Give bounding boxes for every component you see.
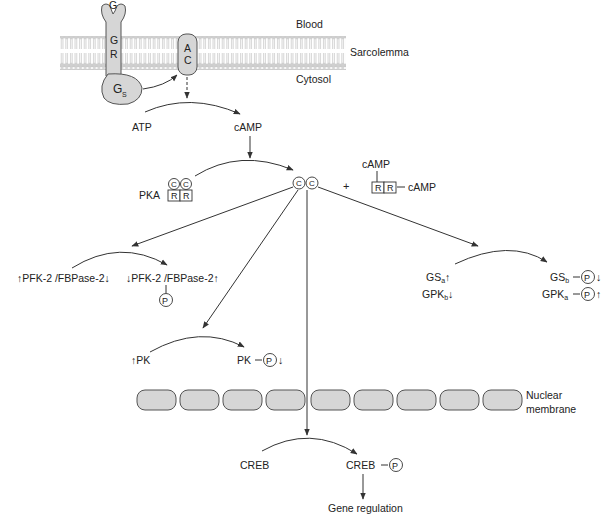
ac-letter-a: A [184, 42, 191, 54]
sarcolemma-bilayer [60, 36, 346, 70]
svg-text:C: C [309, 179, 315, 188]
gs-to-ac-arrow [143, 75, 177, 89]
creb-phosphorylated: CREB P [346, 459, 403, 472]
blood-label: Blood [296, 18, 323, 30]
svg-text:GPKa: GPKa [542, 288, 568, 301]
atp-label: ATP [132, 121, 152, 133]
svg-text:PK: PK [237, 354, 251, 366]
svg-text:↓: ↓ [278, 354, 283, 366]
glycogen-phosphorylation-arrow [455, 250, 547, 264]
nuclear-label-line2: membrane [526, 403, 576, 415]
svg-text:↑: ↑ [596, 288, 601, 300]
camp-top-label: cAMP [362, 158, 390, 170]
svg-text:P: P [584, 273, 590, 283]
glycogen-phosphorylated: GSb P ↓ GPKa P ↑ [542, 271, 601, 302]
pfk2-unphosphorylated: ↑PFK-2 /FBPase-2↓ [17, 272, 110, 284]
regulatory-camp-complex: cAMP R R cAMP [362, 158, 436, 193]
gene-regulation-label: Gene regulation [328, 502, 403, 514]
svg-text:C: C [171, 180, 177, 189]
svg-text:P: P [392, 461, 398, 471]
pka-holoenzyme: C C R R [168, 179, 192, 202]
svg-text:GSa↑: GSa↑ [426, 271, 450, 284]
receptor-letter-g: G [110, 34, 118, 46]
camp-side-label: cAMP [408, 181, 436, 193]
pka-activation-arrow [195, 160, 293, 176]
svg-text:GSb: GSb [550, 271, 569, 284]
svg-text:C: C [296, 179, 302, 188]
svg-text:R: R [171, 191, 178, 201]
pfk2-phosphorylated: ↓PFK-2 /FBPase-2↑ P [126, 272, 219, 307]
atp-to-camp-arrow [145, 102, 240, 114]
plus-sign: + [343, 180, 349, 192]
svg-text:↓: ↓ [596, 271, 601, 283]
pk-phosphorylation-arrow [150, 337, 244, 352]
svg-text:R: R [183, 191, 190, 201]
pk-unphosphorylated: ↑PK [131, 354, 150, 366]
ligand-glucagon: G [109, 0, 117, 11]
gs-subscript: S [122, 91, 127, 98]
glycogen-unphosphorylated: GSa↑ GPKb↓ [422, 271, 453, 301]
gs-protein: G S [102, 74, 142, 105]
arrow-to-glycogen [318, 187, 478, 246]
svg-text:CREB: CREB [346, 459, 375, 471]
nuclear-membrane [137, 390, 522, 410]
svg-text:↑PFK-2 /FBPase-2↓: ↑PFK-2 /FBPase-2↓ [17, 272, 110, 284]
creb-unphosphorylated: CREB [240, 459, 269, 471]
pfk2-phosphorylation-arrow [72, 252, 167, 268]
active-catalytic-subunits: C C [293, 177, 318, 189]
creb-phosphorylation-arrow [262, 438, 357, 454]
svg-text:P: P [584, 290, 590, 300]
arrow-to-pk [203, 190, 298, 328]
sarcolemma-label: Sarcolemma [350, 46, 409, 58]
svg-text:↓PFK-2 /FBPase-2↑: ↓PFK-2 /FBPase-2↑ [126, 272, 219, 284]
camp-label: cAMP [234, 121, 262, 133]
svg-text:R: R [387, 183, 394, 193]
signaling-diagram: Blood Sarcolemma Cytosol G G R G S A C A… [0, 0, 615, 526]
svg-text:C: C [183, 180, 189, 189]
adenylyl-cyclase: A C [178, 34, 197, 75]
gs-label: G [113, 82, 122, 96]
nuclear-label-line1: Nuclear [526, 389, 563, 401]
svg-text:R: R [375, 183, 382, 193]
pka-label: PKA [139, 189, 160, 201]
cytosol-label: Cytosol [296, 73, 331, 85]
pk-phosphorylated: PK P ↓ [237, 354, 283, 367]
svg-text:P: P [266, 356, 272, 366]
svg-text:GPKb↓: GPKb↓ [422, 288, 453, 301]
phosphate-label: P [162, 296, 168, 306]
ac-letter-c: C [184, 54, 192, 66]
receptor-letter-r: R [110, 48, 118, 60]
